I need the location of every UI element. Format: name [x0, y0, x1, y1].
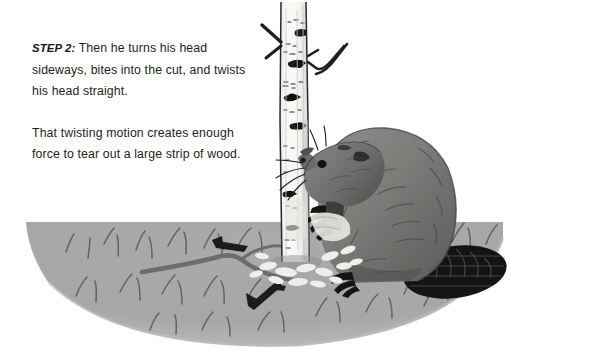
tree-branch-right	[308, 44, 347, 74]
step-paragraph: STEP 2: Then he turns his head sideways,…	[32, 38, 250, 103]
tree-branch-left	[262, 25, 281, 58]
detail-paragraph: That twisting motion creates enough forc…	[32, 123, 250, 166]
instruction-text-block: STEP 2: Then he turns his head sideways,…	[32, 38, 250, 166]
birch-tree-trunk	[280, 2, 309, 262]
beaver-eye	[317, 160, 326, 168]
illustration-page: STEP 2: Then he turns his head sideways,…	[0, 0, 593, 363]
step-label: STEP 2:	[32, 42, 75, 54]
